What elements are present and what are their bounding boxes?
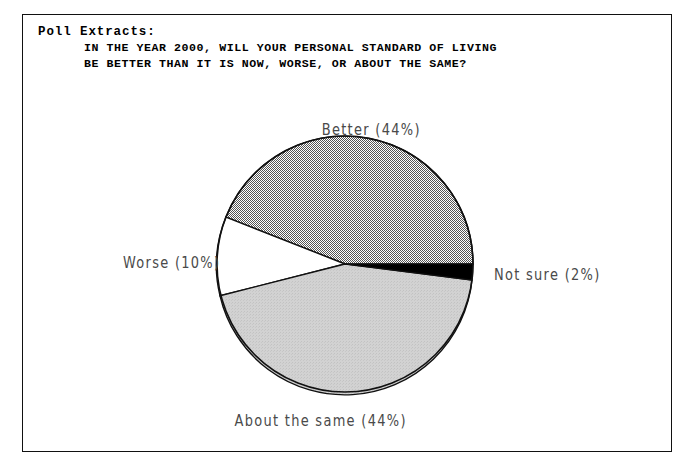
pie-chart: Better (44%) Worse (10%) Not sure (2%) A… bbox=[22, 14, 672, 452]
pie-label-about-the-same: About the same (44%) bbox=[234, 412, 406, 430]
pie-label-worse: Worse (10%) bbox=[123, 254, 220, 272]
pie-chart-svg bbox=[22, 14, 672, 452]
pie-label-not-sure: Not sure (2%) bbox=[494, 266, 601, 284]
screenshot-root: Poll Extracts: IN THE YEAR 2000, WILL YO… bbox=[0, 0, 686, 469]
pie-label-better: Better (44%) bbox=[322, 121, 421, 139]
